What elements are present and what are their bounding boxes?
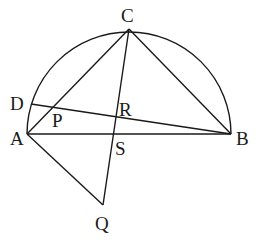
label-d: D: [10, 93, 24, 114]
label-s: S: [115, 138, 126, 159]
label-p: P: [52, 110, 63, 131]
label-q: Q: [95, 213, 109, 234]
geometry-diagram: C D P R A S B Q: [0, 0, 263, 243]
label-b: B: [236, 128, 249, 149]
segment-aq: [27, 134, 103, 205]
label-r: R: [119, 99, 132, 120]
label-c: C: [121, 5, 134, 26]
label-a: A: [10, 128, 24, 149]
